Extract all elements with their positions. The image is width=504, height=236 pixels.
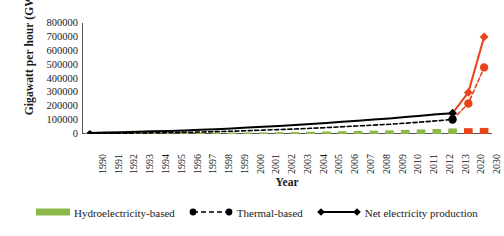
y-tick-label: 500000 xyxy=(18,60,78,70)
x-tick-label: 1995 xyxy=(177,154,187,174)
legend-item-label: Net electricity production xyxy=(365,208,478,219)
axis-lines xyxy=(82,23,492,134)
bar xyxy=(354,131,363,134)
x-tick-label: 2020 xyxy=(476,154,486,174)
chart-svg xyxy=(82,23,492,134)
legend-item: Net electricity production xyxy=(317,206,478,220)
x-tick-label: 2001 xyxy=(271,154,281,174)
chart-legend: Hydroelectricity-basedThermal-basedNet e… xyxy=(36,203,496,223)
bar xyxy=(448,128,457,134)
y-axis-tick-labels: 0100000200000300000400000500000600000700… xyxy=(18,18,78,134)
legend-item: Hydroelectricity-based xyxy=(36,207,175,219)
bar xyxy=(385,130,394,134)
y-tick-label: 100000 xyxy=(18,115,78,125)
x-tick-label: 1993 xyxy=(145,154,155,174)
y-tick-label: 0 xyxy=(18,129,78,139)
x-tick-label: 2012 xyxy=(445,154,455,174)
bar xyxy=(432,129,441,134)
x-tick-label: 1999 xyxy=(240,154,250,174)
bar xyxy=(401,130,410,134)
y-tick-label: 400000 xyxy=(18,74,78,84)
x-tick-label: 1996 xyxy=(193,154,203,174)
net-electricity-production-line xyxy=(87,32,489,134)
legend-item: Thermal-based xyxy=(189,206,303,220)
bar xyxy=(480,128,489,134)
x-tick-label: 2007 xyxy=(366,154,376,174)
thermal-based-line xyxy=(87,63,488,134)
bar xyxy=(291,132,300,134)
bar xyxy=(338,131,347,134)
bar xyxy=(417,129,426,134)
net-marker xyxy=(480,32,489,41)
bar xyxy=(243,132,252,134)
x-tick-label: 2013 xyxy=(461,154,471,174)
y-tick-label: 300000 xyxy=(18,87,78,97)
y-tick-label: 700000 xyxy=(18,32,78,42)
legend-item-label: Hydroelectricity-based xyxy=(74,208,175,219)
y-tick-label: 200000 xyxy=(18,101,78,111)
x-axis-title: Year xyxy=(82,176,492,188)
x-tick-label: 2030 xyxy=(492,154,502,174)
bar xyxy=(322,132,331,134)
x-tick-label: 1998 xyxy=(224,154,234,174)
x-tick-label: 1991 xyxy=(114,154,124,174)
thermal-marker xyxy=(480,63,488,71)
x-tick-label: 1994 xyxy=(161,154,171,174)
bar xyxy=(212,133,221,135)
x-tick-label: 2011 xyxy=(429,154,439,174)
plot-area xyxy=(82,23,492,134)
chart-figure: Gigawatt per hour (GWh) 0100000200000300… xyxy=(0,0,504,236)
x-tick-label: 2004 xyxy=(319,154,329,174)
x-tick-label: 2010 xyxy=(413,154,423,174)
legend-solid-line-icon xyxy=(317,206,361,220)
x-tick-label: 1997 xyxy=(208,154,218,174)
x-axis-tick-labels: 1990199119921993199419951996199719981999… xyxy=(82,136,492,176)
legend-dashed-line-icon xyxy=(189,206,233,220)
bar xyxy=(369,131,378,134)
x-tick-label: 1990 xyxy=(98,154,108,174)
y-tick-label: 800000 xyxy=(18,18,78,28)
y-tick-label: 600000 xyxy=(18,46,78,56)
x-tick-label: 2003 xyxy=(303,154,313,174)
x-tick-label: 1992 xyxy=(129,154,139,174)
legend-bar-swatch-icon xyxy=(36,207,70,219)
x-tick-label: 2009 xyxy=(398,154,408,174)
bar xyxy=(227,133,236,135)
x-tick-label: 2008 xyxy=(382,154,392,174)
bar xyxy=(259,132,268,134)
x-tick-label: 2006 xyxy=(350,154,360,174)
bar xyxy=(275,132,284,134)
x-tick-label: 2000 xyxy=(256,154,266,174)
bar xyxy=(306,132,315,134)
x-tick-label: 2002 xyxy=(287,154,297,174)
x-tick-label: 2005 xyxy=(334,154,344,174)
bar xyxy=(464,128,473,134)
legend-item-label: Thermal-based xyxy=(237,208,303,219)
thermal-marker xyxy=(464,99,472,107)
